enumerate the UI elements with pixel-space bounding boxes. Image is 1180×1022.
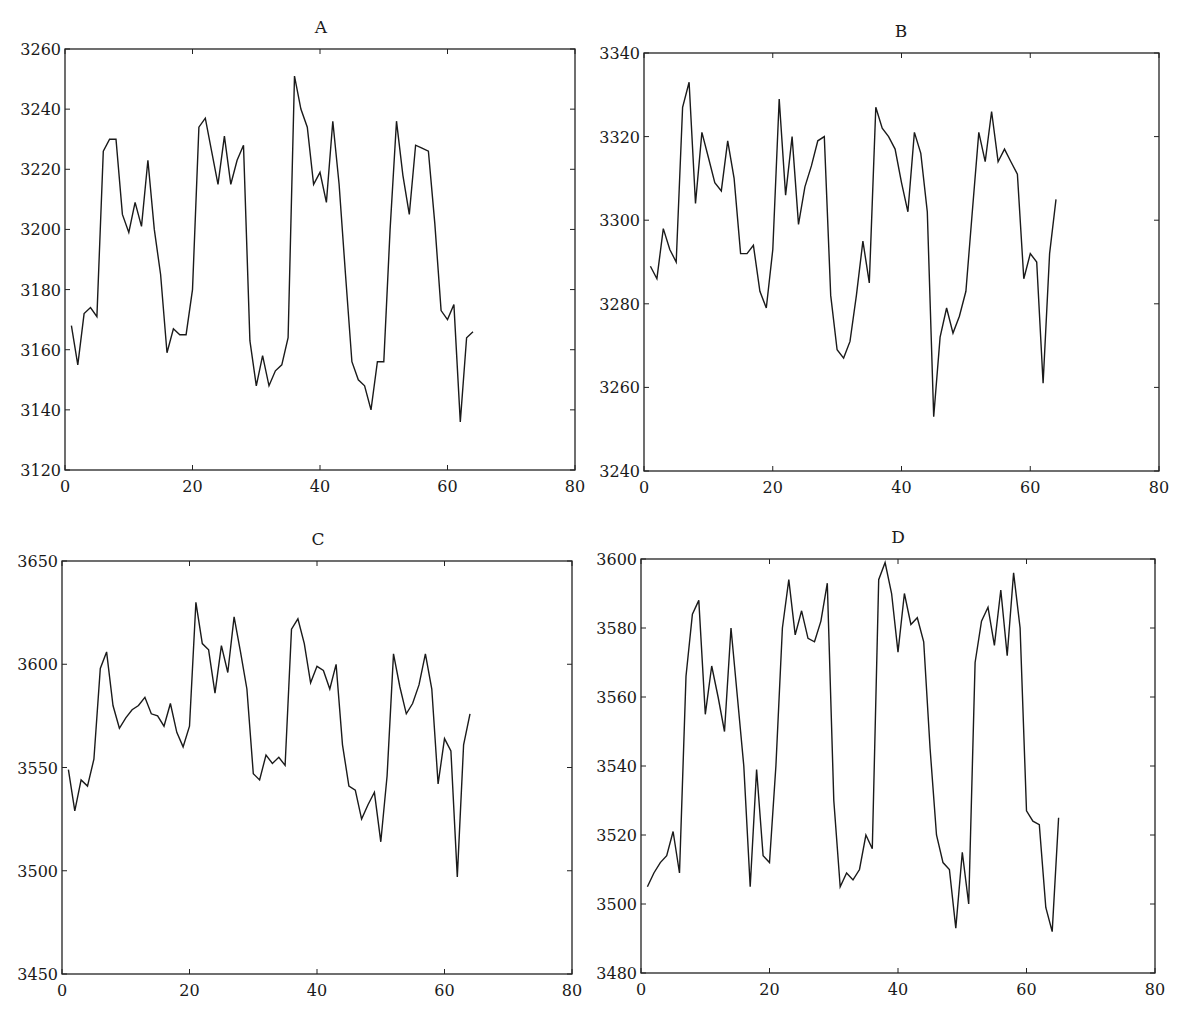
y-tick-label: 3500 (596, 895, 637, 914)
plot-frame-d (641, 559, 1155, 973)
x-tick-label: 80 (1145, 980, 1165, 999)
y-tick-label: 3520 (596, 826, 637, 845)
x-tick-label: 40 (888, 980, 908, 999)
y-tick-label: 3540 (596, 757, 637, 776)
series-line-d (647, 563, 1058, 932)
x-tick-label: 60 (1016, 980, 1036, 999)
chart-panel-d: D0204060803480350035203540356035803600 (0, 0, 1180, 1022)
x-tick-label: 20 (759, 980, 779, 999)
y-tick-label: 3600 (596, 550, 637, 569)
y-tick-label: 3580 (596, 619, 637, 638)
line-chart-d: D0204060803480350035203540356035803600 (0, 0, 1180, 1022)
x-tick-label: 0 (636, 980, 646, 999)
y-tick-label: 3480 (596, 964, 637, 983)
y-tick-label: 3560 (596, 688, 637, 707)
chart-title-d: D (891, 527, 905, 547)
